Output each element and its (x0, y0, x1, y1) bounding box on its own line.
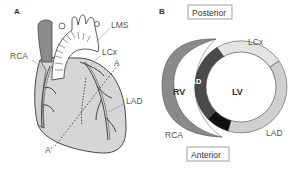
coronary-territories-figure: A (0, 0, 296, 170)
label-rca: RCA (10, 51, 28, 61)
vessel-stub (59, 23, 65, 29)
posterior-label: Posterior (192, 8, 226, 18)
anterior-label: Anterior (191, 150, 221, 160)
vessel-stub (95, 22, 100, 27)
panel-b-letter: B (159, 7, 165, 16)
label-lv: LV (232, 87, 243, 97)
superior-vena-cava (38, 20, 52, 62)
label-rv: RV (173, 87, 185, 97)
label-section-a-prime: A' (45, 145, 53, 155)
label-lms: LMS (111, 20, 129, 30)
panel-b: B Posterior LCx LAD RV LV RCA LAD Anteri… (159, 5, 287, 161)
label-lad-anterior: LAD (266, 128, 283, 138)
label-lcx: LCx (102, 47, 118, 57)
label-lcx-b: LCx (248, 37, 264, 47)
panel-a-letter: A (14, 7, 20, 16)
label-lad-septal: LAD (186, 77, 202, 86)
label-lad: LAD (126, 96, 143, 106)
panel-a: A (10, 7, 143, 155)
label-section-a: A (114, 58, 120, 68)
label-rca-b: RCA (165, 130, 183, 140)
